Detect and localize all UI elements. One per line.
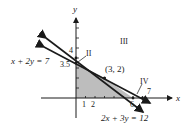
intersection-label: (3, 2)	[105, 64, 125, 74]
tick-label-x6: 6	[130, 100, 134, 109]
point-0-4	[75, 57, 78, 60]
tick-label-y3.5: 3.5	[60, 60, 70, 69]
intersection-point	[103, 76, 106, 79]
point-6-0	[132, 97, 135, 100]
pointer-region-2	[78, 56, 86, 62]
tick-label-x7: 7	[147, 87, 151, 96]
tick-label-x1: 1	[82, 100, 86, 109]
point-0-3.5	[75, 62, 78, 65]
y-axis-label: y	[72, 4, 77, 14]
region-3-label: III	[120, 37, 128, 46]
eq2-label: 2x + 3y = 12	[101, 113, 149, 123]
point-7-0	[141, 97, 144, 100]
eq1-label: x + 2y = 7	[10, 56, 50, 66]
tick-label-y4: 4	[69, 46, 73, 55]
tick-label-x2: 2	[91, 100, 95, 109]
region-2-label: II	[86, 49, 92, 58]
region-4-label: IV	[140, 77, 149, 86]
x-axis-label: x	[175, 93, 180, 103]
linear-programming-chart: y x x + 2y = 7 2x + 3y = 12 (3, 2) II II…	[0, 0, 190, 136]
